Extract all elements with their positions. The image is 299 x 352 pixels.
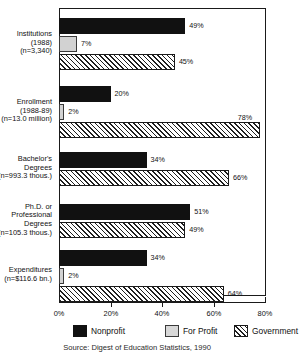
bar-row xyxy=(59,18,265,34)
bar-government[interactable] xyxy=(59,54,175,70)
bar-nonprofit[interactable] xyxy=(59,152,147,168)
bar-value-label: 34% xyxy=(151,254,165,262)
category-label-line: (n=13.0 million) xyxy=(1,115,52,124)
bar-value-label: 7% xyxy=(81,40,91,48)
bar-nonprofit[interactable] xyxy=(59,204,190,220)
bar-value-label: 2% xyxy=(68,272,78,280)
bar-value-label: 78% xyxy=(238,114,252,122)
category-label: Expenditures(n=$116.6 bn.) xyxy=(4,266,52,283)
bar-value-label: 34% xyxy=(151,156,165,164)
x-axis-tick xyxy=(162,302,163,307)
bar-row xyxy=(59,268,265,284)
source-note: Source: Digest of Education Statistics, … xyxy=(0,343,274,352)
x-axis-tick-label: 60% xyxy=(207,309,222,318)
x-axis-tick xyxy=(214,302,215,307)
category-label: Ph.D. orProfessionalDegrees(n=105.3 thou… xyxy=(0,203,52,237)
bar-value-label: 64% xyxy=(228,290,242,298)
bar-government[interactable] xyxy=(59,222,185,238)
x-axis-tick-label: 40% xyxy=(155,309,170,318)
x-axis-tick xyxy=(111,302,112,307)
bar-value-label: 20% xyxy=(115,90,129,98)
bar-forprofit[interactable] xyxy=(59,36,77,52)
bar-row xyxy=(59,222,265,238)
bar-value-label: 66% xyxy=(233,174,247,182)
bar-government[interactable] xyxy=(59,122,260,138)
legend-swatch-nonprofit-icon xyxy=(73,325,87,337)
bar-government[interactable] xyxy=(59,170,229,186)
legend-item-government[interactable]: Government xyxy=(234,324,298,337)
category-label-line: (n=3,340) xyxy=(17,47,52,56)
x-axis-tick xyxy=(59,297,60,303)
bar-row xyxy=(59,86,265,102)
bar-nonprofit[interactable] xyxy=(59,250,147,266)
category-label-line: (n=105.3 thous.) xyxy=(0,229,52,238)
chart-legend: NonprofitFor ProfitGovernment xyxy=(59,324,274,339)
category-label-line: (n=993.3 thous.) xyxy=(0,172,52,181)
bar-nonprofit[interactable] xyxy=(59,86,111,102)
bar-row xyxy=(59,54,265,70)
legend-swatch-government-icon xyxy=(234,325,248,337)
x-axis-tick-label: 0% xyxy=(54,309,65,318)
legend-label: Nonprofit xyxy=(91,326,125,336)
bar-forprofit[interactable] xyxy=(59,268,64,284)
legend-label: For Profit xyxy=(183,326,217,336)
bar-value-label: 51% xyxy=(194,208,208,216)
legend-item-nonprofit[interactable]: Nonprofit xyxy=(73,324,125,337)
legend-label: Government xyxy=(252,326,298,336)
category-label: Bachelor'sDegrees(n=993.3 thous.) xyxy=(0,155,52,181)
bar-government[interactable] xyxy=(59,286,224,302)
bar-value-label: 49% xyxy=(189,226,203,234)
legend-item-forprofit[interactable]: For Profit xyxy=(165,324,217,337)
legend-swatch-forprofit-icon xyxy=(165,325,179,337)
category-label: Institutions(1988)(n=3,340) xyxy=(17,30,52,56)
category-label-line: (n=$116.6 bn.) xyxy=(4,275,52,284)
bar-value-label: 2% xyxy=(68,108,78,116)
category-label: Enrollment(1988-89)(n=13.0 million) xyxy=(1,98,52,124)
bar-forprofit[interactable] xyxy=(59,104,64,120)
bar-row xyxy=(59,122,265,138)
bar-value-label: 45% xyxy=(179,58,193,66)
bar-nonprofit[interactable] xyxy=(59,18,185,34)
x-axis-tick xyxy=(265,297,266,303)
x-axis-tick-label: 80% xyxy=(258,309,273,318)
bar-row xyxy=(59,104,265,120)
bar-value-label: 49% xyxy=(189,22,203,30)
bar-row xyxy=(59,204,265,220)
x-axis-tick-label: 20% xyxy=(104,309,119,318)
